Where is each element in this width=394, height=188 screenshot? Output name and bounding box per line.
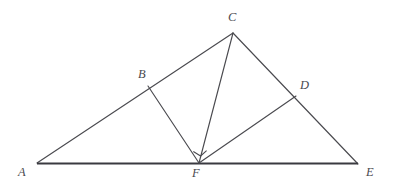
segment-B-F (148, 86, 199, 163)
vertex-label-F: F (192, 167, 200, 180)
segment-C-E (233, 33, 358, 164)
vertex-label-E: E (366, 166, 374, 179)
vertex-label-C: C (228, 11, 236, 24)
right-angle-marker-BFD (193, 151, 206, 156)
geometry-figure: C B D A F E (0, 0, 394, 188)
vertex-label-A: A (18, 166, 26, 179)
vertex-label-B: B (138, 68, 146, 81)
vertex-label-D: D (300, 79, 309, 92)
geometry-canvas (0, 0, 394, 188)
